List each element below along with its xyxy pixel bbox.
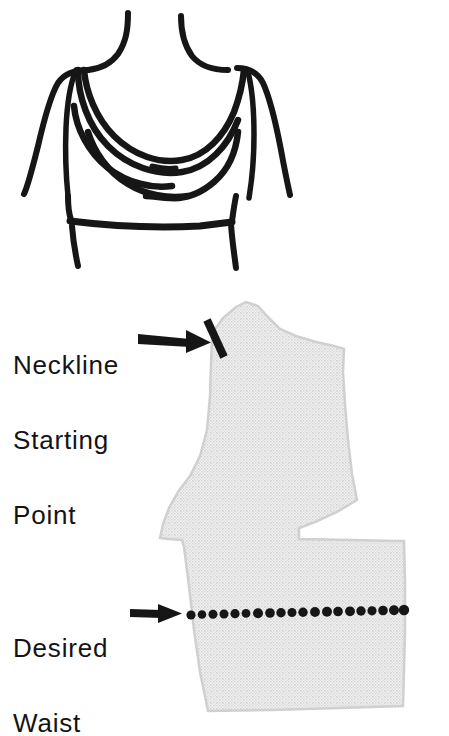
waist-arrow-head [158, 604, 182, 623]
waist-annotation-arrow [130, 604, 182, 623]
cowl-drape-accent [152, 166, 176, 168]
neckline-arrow-shaft [138, 334, 190, 347]
desired-waist-label: Desired Waist [13, 586, 108, 736]
armhole-left-inner [66, 70, 76, 196]
neckline-arrow-head [186, 330, 211, 353]
bodice-left-side-seam [68, 196, 71, 220]
neckline-label-line-2: Starting [13, 428, 119, 453]
shoulder-right-outer [237, 68, 290, 195]
armhole-right-inner [248, 72, 254, 198]
neckline-label-line-3: Point [13, 503, 119, 528]
neck-left-contour [88, 13, 128, 70]
neck-right-contour [181, 16, 228, 70]
waistband-line [70, 221, 232, 227]
skirt-left-edge [72, 226, 78, 266]
neckline-annotation-arrow [138, 330, 211, 353]
garment-sketch-group [24, 13, 290, 268]
neckline-label-line-1: Neckline [13, 353, 119, 378]
bodice-right-side-seam [232, 196, 236, 221]
waist-arrow-shaft [130, 609, 162, 618]
neckline-starting-point-label: Neckline Starting Point [13, 303, 119, 577]
skirt-right-edge [231, 224, 236, 268]
waist-label-line-2: Waist [13, 711, 108, 736]
pattern-piece-group [160, 302, 409, 711]
waist-label-line-1: Desired [13, 636, 108, 661]
